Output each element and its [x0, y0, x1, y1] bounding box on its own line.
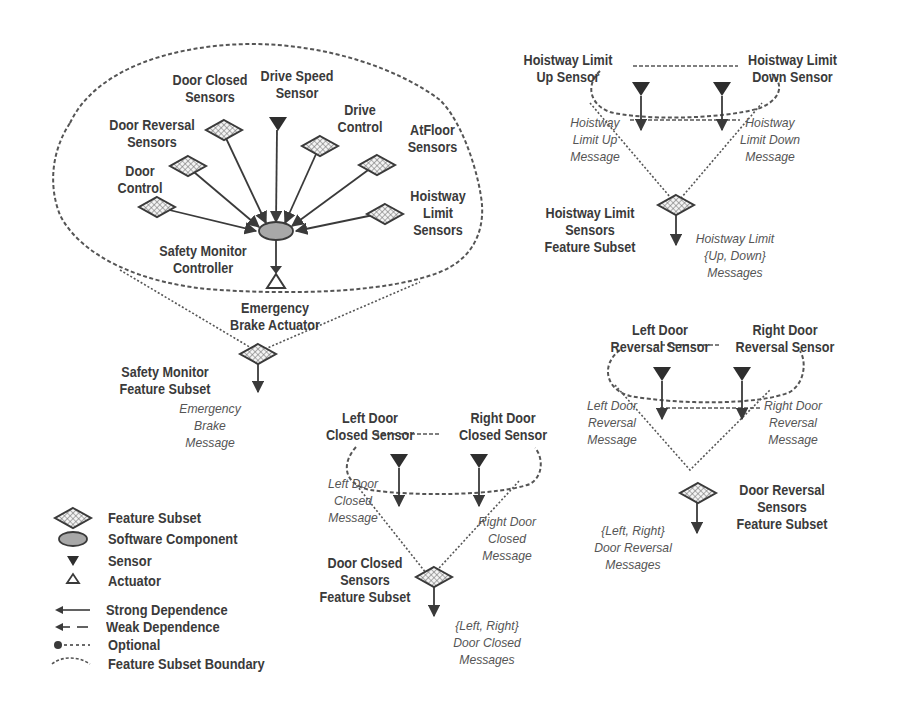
- right-door-reversal-message-label: Right Door Reversal Message: [753, 397, 834, 448]
- left-door-reversal-sensor-label: Left Door Reversal Sensor: [606, 322, 714, 356]
- hoistway-limit-down-sensor-icon: [713, 82, 731, 96]
- legend-item-strong-dependence: Strong Dependence: [106, 602, 228, 618]
- door-closed-output-message-label: {Left, Right} Door Closed Messages: [442, 617, 532, 668]
- software-component-ellipse-icon: [59, 532, 87, 546]
- legend-item-optional: Optional: [108, 637, 160, 653]
- right-door-reversal-sensor-label: Right Door Reversal Sensor: [727, 322, 844, 356]
- feature-subset-diamond-icon: [55, 508, 91, 528]
- hoistway-limit-up-sensor-icon: [632, 82, 650, 96]
- emergency-brake-message-label: Emergency Brake Message: [165, 400, 255, 451]
- legend-item-actuator: Actuator: [108, 573, 161, 589]
- spoke-drive-speed: [276, 130, 277, 222]
- weak-dependence-arrow-icon: [55, 623, 88, 631]
- hoistway-limit-subset-diamond-icon: [658, 195, 694, 215]
- legend-item-software-component: Software Component: [108, 531, 238, 547]
- atfloor-sensors-label: AtFloor Sensors: [399, 122, 467, 156]
- drive-control-label: Drive Control: [329, 102, 392, 136]
- door-closed-sensors-label: Door Closed Sensors: [165, 72, 255, 106]
- left-door-reversal-sensor-icon: [653, 367, 671, 381]
- hoistway-limit-up-sensor-label: Hoistway Limit Up Sensor: [514, 52, 622, 86]
- right-door-closed-sensor-label: Right Door Closed Sensor: [449, 410, 557, 444]
- door-reversal-output-message-label: {Left, Right} Door Reversal Messages: [584, 522, 683, 573]
- emergency-brake-actuator-label: Emergency Brake Actuator: [217, 300, 334, 334]
- strong-dependence-arrow-icon: [55, 606, 90, 614]
- legend-item-sensor: Sensor: [108, 553, 152, 569]
- drive-control-diamond-icon: [302, 136, 338, 156]
- spoke-drive-control: [285, 143, 321, 223]
- sensor-triangle-down-icon: [67, 556, 79, 566]
- hoistway-limit-down-sensor-label: Hoistway Limit Down Sensor: [736, 52, 849, 86]
- safety-monitor-subset-diamond-icon: [240, 344, 276, 364]
- hoistway-limit-output-message-label: Hoistway Limit {Up, Down} Messages: [686, 230, 785, 281]
- hoistway-limit-down-message-label: Hoistway Limit Down Message: [730, 114, 811, 165]
- drive-speed-sensor-icon: [269, 117, 287, 131]
- legend-item-boundary: Feature Subset Boundary: [108, 656, 265, 672]
- safety-monitor-controller-icon: [259, 222, 293, 240]
- boundary-dashed-curve-icon: [52, 658, 90, 664]
- door-closed-sensors-diamond-icon: [206, 120, 242, 140]
- door-reversal-subset-label: Door Reversal Sensors Feature Subset: [719, 482, 845, 533]
- left-door-closed-sensor-icon: [390, 454, 408, 468]
- hoistway-limit-subset-label: Hoistway Limit Sensors Feature Subset: [532, 205, 649, 256]
- left-door-closed-message-label: Left Door Closed Message: [322, 475, 385, 526]
- door-reversal-sensors-label: Door Reversal Sensors: [98, 117, 206, 151]
- legend-item-feature-subset: Feature Subset: [108, 510, 201, 526]
- door-reversal-subset-diamond-icon: [680, 483, 716, 503]
- right-door-closed-sensor-icon: [470, 454, 488, 468]
- optional-dependence-icon: [54, 641, 90, 649]
- emergency-brake-actuator-icon: [267, 274, 285, 288]
- door-control-diamond-icon: [139, 197, 175, 217]
- safety-monitor-controller-label: Safety Monitor Controller: [145, 243, 262, 277]
- spoke-door-closed: [224, 134, 266, 223]
- right-door-closed-message-label: Right Door Closed Message: [467, 513, 548, 564]
- door-closed-subset-label: Door Closed Sensors Feature Subset: [307, 555, 424, 606]
- door-control-label: Door Control: [104, 163, 176, 197]
- actuator-triangle-up-icon: [67, 574, 79, 583]
- legend-icons: [52, 508, 91, 664]
- hoistway-limit-sensors-label: Hoistway Limit Sensors: [402, 188, 474, 239]
- hoistway-limit-up-message-label: Hoistway Limit Up Message: [559, 114, 631, 165]
- right-door-reversal-sensor-icon: [733, 367, 751, 381]
- safety-monitor-subset-label: Safety Monitor Feature Subset: [107, 364, 224, 398]
- drive-speed-sensor-label: Drive Speed Sensor: [252, 68, 342, 102]
- hoistway-limit-sensors-diamond-icon: [367, 204, 403, 224]
- left-door-reversal-message-label: Left Door Reversal Message: [576, 397, 648, 448]
- legend-item-weak-dependence: Weak Dependence: [106, 619, 220, 635]
- left-door-closed-sensor-label: Left Door Closed Sensor: [316, 410, 424, 444]
